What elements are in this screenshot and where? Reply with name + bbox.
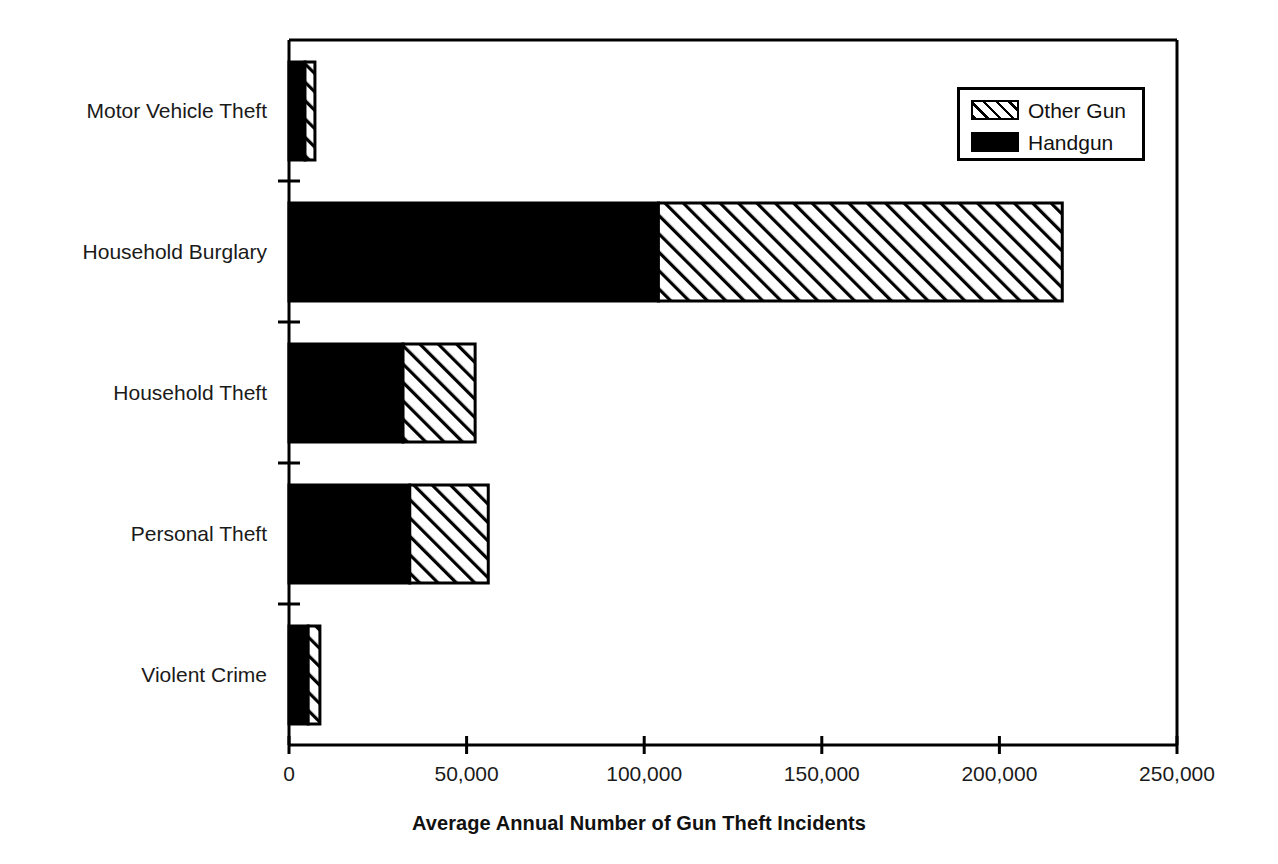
bar-segment-other-gun <box>308 626 320 724</box>
chart-legend: Other Gun Handgun <box>957 87 1145 161</box>
y-axis-category-label: Household Theft <box>0 382 267 403</box>
x-tick-label: 250,000 <box>1077 763 1277 784</box>
chart-bars <box>289 62 1062 724</box>
bar-segment-handgun <box>289 485 410 583</box>
x-tick-label: 200,000 <box>899 763 1099 784</box>
y-axis-category-label: Motor Vehicle Theft <box>0 100 267 121</box>
y-axis-category-label: Violent Crime <box>0 664 267 685</box>
bar-segment-other-gun <box>403 344 475 442</box>
legend-label-handgun: Handgun <box>1028 132 1113 153</box>
x-tick-label: 50,000 <box>367 763 567 784</box>
bar-segment-other-gun <box>410 485 488 583</box>
legend-swatch-other-gun <box>971 100 1019 120</box>
bar-segment-other-gun <box>658 203 1062 301</box>
legend-item-handgun: Handgun <box>971 128 1113 156</box>
legend-item-other-gun: Other Gun <box>971 96 1126 124</box>
bar-segment-other-gun <box>305 62 315 160</box>
legend-swatch-handgun <box>971 132 1019 152</box>
y-axis-category-label: Personal Theft <box>0 523 267 544</box>
legend-label-other-gun: Other Gun <box>1028 100 1126 121</box>
x-axis-title: Average Annual Number of Gun Theft Incid… <box>0 812 1278 835</box>
x-tick-label: 100,000 <box>544 763 744 784</box>
x-tick-label: 150,000 <box>722 763 922 784</box>
bar-segment-handgun <box>289 203 658 301</box>
gun-theft-stacked-bar-chart: Motor Vehicle TheftHousehold BurglaryHou… <box>0 0 1278 864</box>
bar-segment-handgun <box>289 344 403 442</box>
x-tick-label: 0 <box>189 763 389 784</box>
y-axis-category-label: Household Burglary <box>0 241 267 262</box>
bar-segment-handgun <box>289 62 305 160</box>
bar-segment-handgun <box>289 626 308 724</box>
